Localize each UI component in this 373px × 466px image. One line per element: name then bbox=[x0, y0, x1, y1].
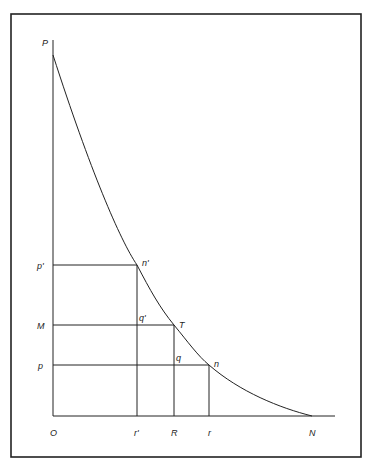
label-P: P bbox=[42, 38, 48, 48]
diagram-canvas: P p' M p n' q' T q n O r' R r N bbox=[0, 0, 373, 466]
label-R: R bbox=[171, 428, 178, 438]
label-n-prime: n' bbox=[142, 258, 149, 268]
label-p-prime: p' bbox=[36, 261, 44, 271]
label-q: q bbox=[176, 353, 181, 363]
label-T: T bbox=[179, 320, 186, 330]
demand-curve bbox=[53, 55, 312, 416]
label-O: O bbox=[50, 428, 57, 438]
label-q-prime: q' bbox=[139, 313, 146, 323]
label-r: r bbox=[208, 428, 212, 438]
label-N: N bbox=[309, 428, 316, 438]
frame-border bbox=[11, 14, 361, 457]
label-p: p bbox=[37, 361, 43, 371]
label-M: M bbox=[37, 321, 45, 331]
label-r-prime: r' bbox=[134, 428, 139, 438]
label-n: n bbox=[214, 359, 219, 369]
